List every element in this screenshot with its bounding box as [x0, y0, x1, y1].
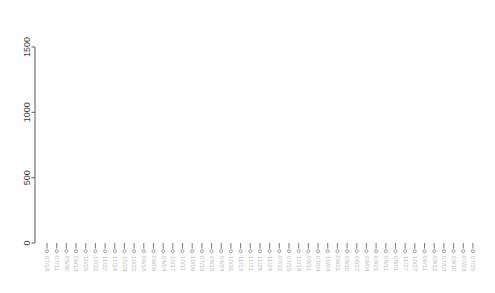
leaf-marker [326, 250, 329, 253]
leaf-marker [200, 250, 203, 253]
leaf-marker [65, 250, 68, 253]
leaf-marker [297, 250, 300, 253]
leaf-label: 11/24 [267, 256, 274, 272]
leaf-marker [46, 250, 49, 253]
leaf-marker [442, 250, 445, 253]
leaf-marker [433, 250, 436, 253]
leaf-label: 10/25 [83, 256, 90, 272]
leaf-label: 07/19 [199, 256, 206, 272]
leaf-marker [239, 250, 242, 253]
leaf-label: 06/27 [354, 256, 361, 272]
leaf-label: 06/21 [335, 256, 342, 272]
leaf-marker [404, 250, 407, 253]
leaf-label: 07/25 [470, 256, 477, 272]
y-axis-tick-label: 0 [22, 240, 32, 245]
leaf-label: 10/18 [296, 256, 303, 272]
leaf-label: 07/18 [44, 256, 51, 272]
leaf-marker [462, 250, 465, 253]
leaf-marker [471, 250, 474, 253]
leaf-label: 10/06 [190, 256, 197, 272]
leaf-marker [84, 250, 87, 253]
leaf-marker [171, 250, 174, 253]
leaf-label: 06/06 [151, 256, 158, 272]
leaf-marker [123, 250, 126, 253]
leaf-label: 09/12 [432, 256, 439, 272]
leaf-label: 07/22 [277, 256, 284, 272]
dendrogram-canvas: 050010001500 07/1807/1105/3006/1310/2510… [0, 0, 495, 293]
leaf-label: 10/29 [122, 256, 129, 272]
leaf-marker [210, 250, 213, 253]
y-axis-tick-label: 1000 [22, 102, 32, 122]
leaf-marker [268, 250, 271, 253]
leaf-marker [162, 250, 165, 253]
leaf-marker [452, 250, 455, 253]
leaf-marker [365, 250, 368, 253]
leaf-label: 10/22 [93, 256, 100, 272]
leaf-marker [394, 250, 397, 253]
leaf-marker [220, 250, 223, 253]
leaf-label: 11/13 [238, 256, 245, 272]
leaf-label: 09/10 [451, 256, 458, 272]
leaf-label: 09/04 [364, 256, 371, 272]
leaf-marker [113, 250, 116, 253]
leaf-label: 04/24 [219, 256, 226, 272]
leaf-marker [278, 250, 281, 253]
leaf-marker [133, 250, 136, 253]
leaf-marker [317, 250, 320, 253]
leaf-marker [336, 250, 339, 253]
leaf-label: 05/15 [209, 256, 216, 272]
y-axis: 050010001500 [22, 37, 35, 246]
leaf-marker [229, 250, 232, 253]
leaf-label: 07/03 [441, 256, 448, 272]
leaf-label: 07/04 [315, 256, 322, 272]
leaf-marker [142, 250, 145, 253]
leaf-label: 10/17 [170, 256, 177, 272]
leaf-marker [55, 250, 58, 253]
leaf-marker [355, 250, 358, 253]
dendrogram-plot: 050010001500 07/1807/1105/3006/1310/2510… [0, 0, 495, 293]
leaf-marker [288, 250, 291, 253]
leaf-marker [181, 250, 184, 253]
leaf-label: 11/27 [403, 256, 410, 272]
leaf-marker [249, 250, 252, 253]
leaf-label: 04/04 [161, 256, 168, 272]
leaf-label: 03/21 [373, 256, 380, 272]
leaf-label: 07/15 [286, 256, 293, 272]
leaf-marker [346, 250, 349, 253]
leaf-label: 11/28 [257, 256, 264, 272]
y-axis-tick-label: 1500 [22, 37, 32, 57]
leaf-label: 06/11 [422, 256, 429, 272]
leaf-label: 11/21 [248, 256, 255, 272]
leaf-label: 10/11 [180, 256, 187, 272]
leaf-label: 11/24 [112, 256, 119, 272]
leaf-label: 10/31 [228, 256, 235, 272]
leaf-marker [191, 250, 194, 253]
leaf-label: 09/11 [306, 256, 313, 272]
leaf-marker [75, 250, 78, 253]
leaf-label: 08/01 [393, 256, 400, 272]
leaf-marker [384, 250, 387, 253]
y-axis-tick-label: 500 [22, 170, 32, 185]
leaf-label: 09/10 [344, 256, 351, 272]
leaf-label: 05/30 [64, 256, 71, 272]
leaf-marker [307, 250, 310, 253]
leaf-label: 11/22 [102, 256, 109, 272]
leaf-marker [152, 250, 155, 253]
leaf-label: 10/27 [412, 256, 419, 272]
leaf-label: 10/22 [131, 256, 138, 272]
leaf-marker [94, 250, 97, 253]
dendrogram-leaves: 07/1807/1105/3006/1310/2510/2211/2211/24… [44, 243, 477, 272]
leaf-marker [413, 250, 416, 253]
leaf-label: 07/23 [461, 256, 468, 272]
leaf-marker [104, 250, 107, 253]
leaf-label: 10/04 [325, 256, 332, 272]
leaf-label: 07/11 [54, 256, 61, 272]
leaf-marker [375, 250, 378, 253]
leaf-marker [258, 250, 261, 253]
leaf-label: 06/18 [141, 256, 148, 272]
leaf-marker [423, 250, 426, 253]
leaf-label: 08/11 [383, 256, 390, 272]
leaf-label: 06/13 [73, 256, 80, 272]
